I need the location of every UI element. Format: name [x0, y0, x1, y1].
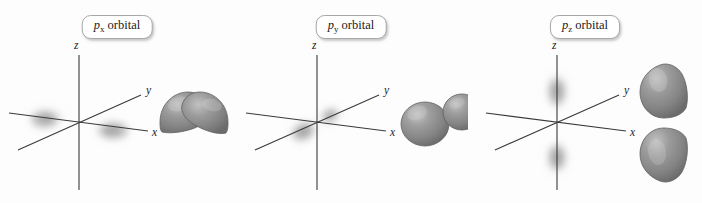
axis-label-z: z [311, 39, 317, 51]
axis-label-x: x [151, 126, 158, 138]
electron-density-cloud-py [284, 101, 346, 148]
pz-orbital-lobes [640, 64, 687, 182]
orbital-subscript: x [100, 24, 105, 34]
py-orbital-lobes [401, 94, 468, 146]
px-orbital-lobes [160, 92, 228, 134]
axis-label-y: y [623, 84, 630, 97]
panel-pz: pz orbital [468, 0, 702, 203]
axis-label-x: x [389, 126, 396, 138]
axis-label-y: y [383, 84, 390, 97]
orbital-subscript: y [334, 24, 339, 34]
axis-label-x: x [629, 126, 636, 138]
orbital-word: orbital [108, 18, 141, 32]
label-chip-py: py orbital [316, 15, 387, 39]
orbital-word: orbital [575, 18, 608, 32]
axis-system-py [246, 55, 386, 190]
orbital-word: orbital [342, 18, 375, 32]
axis-label-y: y [145, 84, 152, 97]
p-orbital-figure: px orbital [0, 0, 702, 203]
panel-px: px orbital [0, 0, 234, 203]
axis-label-z: z [551, 39, 557, 51]
orbital-subscript: z [568, 24, 572, 34]
label-chip-pz: pz orbital [550, 15, 620, 39]
axis-label-z: z [73, 39, 79, 51]
panel-py: py orbital [234, 0, 468, 203]
label-chip-px: px orbital [82, 15, 153, 39]
